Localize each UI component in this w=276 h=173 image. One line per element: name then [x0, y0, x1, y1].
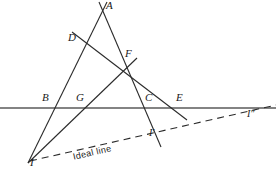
line-I-G-F — [28, 58, 137, 163]
point-label-C: C — [145, 92, 152, 103]
point-label-F: F — [125, 48, 132, 59]
line-D-F-E — [72, 32, 187, 120]
point-label-I-prime: I' — [149, 128, 154, 138]
point-label-D: D — [68, 32, 76, 43]
point-label-G: G — [76, 92, 84, 103]
point-label-I: I — [30, 157, 34, 168]
geometry-figure: A D F B G C E I I' I″ Ideal line — [0, 0, 276, 173]
point-label-A: A — [106, 0, 113, 11]
line-I-B-D-A — [28, 2, 107, 163]
point-label-E: E — [176, 92, 183, 103]
point-label-B: B — [42, 92, 49, 103]
line-A-F-C-I-prime — [99, 2, 161, 147]
point-label-I-double-prime: I″ — [247, 109, 255, 119]
figure-canvas — [0, 0, 276, 173]
